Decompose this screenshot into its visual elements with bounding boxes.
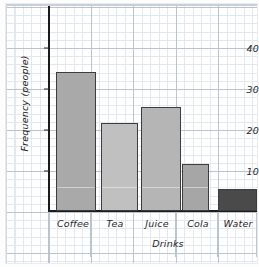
bar-coffee[interactable] <box>56 72 96 211</box>
x-label-tea: Tea <box>94 218 136 229</box>
x-label-cola: Cola <box>177 218 219 229</box>
paper-top-edge <box>6 4 257 6</box>
y-tick-label-20: 20 <box>213 125 259 136</box>
y-tick-label-10: 10 <box>213 166 259 177</box>
category-divider-0 <box>48 212 49 257</box>
y-tick-label-40: 40 <box>213 43 259 54</box>
bar-cola[interactable] <box>182 164 209 211</box>
y-tick-mark-20 <box>44 130 49 131</box>
y-axis-title: Frequency (people) <box>19 44 30 164</box>
x-label-water: Water <box>216 218 259 229</box>
bar-tea[interactable] <box>101 123 138 211</box>
y-axis-line <box>48 6 50 212</box>
y-tick-mark-30 <box>44 89 49 90</box>
y-tick-mark-40 <box>44 48 49 49</box>
paper-left-edge <box>6 4 7 263</box>
x-axis-title: Drinks <box>128 238 208 249</box>
y-tick-mark-10 <box>44 171 49 172</box>
bar-juice[interactable] <box>141 107 181 211</box>
x-label-coffee: Coffee <box>50 218 96 229</box>
y-tick-label-30: 30 <box>213 84 259 95</box>
bar-chart-screenshot: Frequency (people) 40 30 20 10 Coffee Te… <box>0 0 259 267</box>
x-label-juice: Juice <box>135 218 179 229</box>
bar-water[interactable] <box>218 189 257 211</box>
